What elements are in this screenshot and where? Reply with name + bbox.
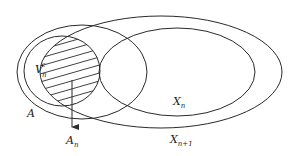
label-a-text: A [27,107,35,120]
label-xn1-base: X [170,133,178,146]
label-a-n: An [66,135,78,149]
label-a: A [27,108,35,119]
label-an-sub: n [74,141,79,149]
label-v-sub: n [42,71,47,79]
set-diagram: Vnc A An Xn Xn+1 [0,0,297,156]
label-xn-sub: n [181,102,186,110]
label-v-n-c: Vnc [35,63,50,78]
label-xn-base: X [173,95,181,108]
label-xn1-sub: n+1 [178,140,193,148]
label-x-n-plus-1: Xn+1 [170,134,193,148]
label-an-base: A [66,134,74,147]
label-x-n: Xn [173,96,185,110]
label-v-sup: c [41,61,45,69]
